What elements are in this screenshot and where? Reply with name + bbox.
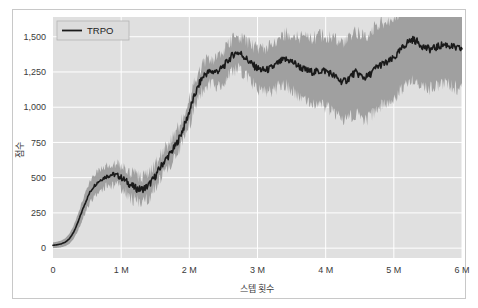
x-axis-tick-label: 1 M (114, 265, 129, 275)
x-axis-tick-label: 5 M (386, 265, 401, 275)
x-axis-tick-label: 4 M (318, 265, 333, 275)
chart-figure: 02505007501,0001,2501,500 01 M2 M3 M4 M5… (0, 0, 478, 308)
chart-legend[interactable]: TRPO (57, 21, 129, 40)
y-axis-tick-label: 0 (41, 243, 46, 253)
legend-label-trpo: TRPO (87, 25, 113, 36)
x-axis-tick-label: 0 (50, 265, 55, 275)
x-axis-ticks: 01 M2 M3 M4 M5 M6 M (50, 265, 469, 275)
x-axis-label: 스텝 횟수 (240, 283, 275, 294)
y-axis-ticks: 02505007501,0001,2501,500 (23, 32, 46, 253)
y-axis-tick-label: 250 (31, 208, 46, 218)
x-axis-tick-label: 3 M (250, 265, 265, 275)
y-axis-tick-label: 1,000 (23, 102, 46, 112)
x-axis-tick-label: 2 M (182, 265, 197, 275)
x-axis-tick-label: 6 M (454, 265, 469, 275)
y-axis-tick-label: 500 (31, 173, 46, 183)
chart-canvas: 02505007501,0001,2501,500 01 M2 M3 M4 M5… (0, 0, 478, 308)
y-axis-tick-label: 1,500 (23, 32, 46, 42)
y-axis-tick-label: 1,250 (23, 67, 46, 77)
y-axis-label: 점수 (14, 142, 25, 158)
y-axis-tick-label: 750 (31, 138, 46, 148)
